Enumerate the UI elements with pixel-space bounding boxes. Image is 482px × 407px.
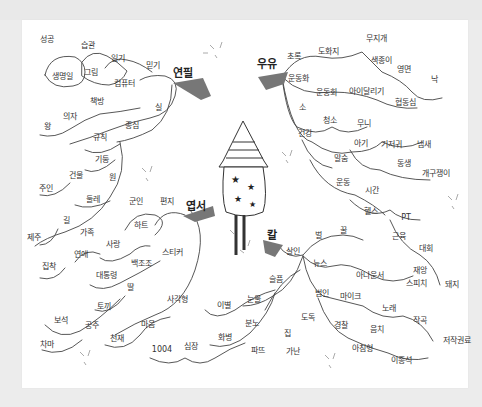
word-label: 가족 <box>80 229 94 237</box>
word-label: 책방 <box>90 98 104 106</box>
word-label: 눈물 <box>247 296 261 304</box>
word-label: 무지개 <box>366 35 387 43</box>
word-label: 마음 <box>141 321 155 329</box>
word-label: 청소 <box>323 117 337 125</box>
word-label: 분노 <box>245 320 259 328</box>
word-label: 주인 <box>39 185 53 193</box>
word-label: 기저귀 <box>381 141 402 149</box>
word-label: 기둥 <box>95 156 109 164</box>
word-label: 가난 <box>286 348 300 356</box>
word-label: 운동회 <box>316 89 337 97</box>
word-label: 공주 <box>85 322 99 330</box>
word-label: 영면 <box>397 66 411 74</box>
word-label: 파뜨 <box>251 347 265 355</box>
word-label: 살인 <box>286 248 300 256</box>
svg-text:★: ★ <box>231 174 240 185</box>
hub-label: 엽서 <box>186 201 206 212</box>
word-label: 보석 <box>54 317 68 325</box>
word-label: 컴퓨터 <box>114 80 135 88</box>
hub-label: 연필 <box>173 68 193 79</box>
svg-text:★: ★ <box>247 182 255 192</box>
word-label: 소 <box>299 104 306 112</box>
word-label: 개구쟁이 <box>422 170 450 178</box>
word-label: 냄새 <box>417 141 431 149</box>
word-label: 도독 <box>301 314 315 322</box>
word-label: 심장 <box>184 343 198 351</box>
word-label: 무니 <box>357 120 371 128</box>
word-label: 재앙 <box>413 267 427 275</box>
word-label: 둘레 <box>86 196 100 204</box>
mind-map-drawing: ★ ★ ★ ★ <box>0 0 482 407</box>
word-label: 협동심 <box>395 99 416 107</box>
word-label: 슬픔 <box>269 276 283 284</box>
rocket-icon <box>219 121 268 255</box>
word-label: 그림 <box>84 69 98 77</box>
word-label: 운동 <box>336 179 350 187</box>
word-label: 초록 <box>287 53 301 61</box>
word-label: 백조조 <box>131 260 152 268</box>
word-label: 길 <box>63 217 70 225</box>
word-label: 믿기 <box>146 62 160 70</box>
word-label: 헬스 <box>364 208 378 216</box>
word-label: 규칙 <box>93 134 107 142</box>
word-label: 토끼 <box>97 303 111 311</box>
word-label: 편지 <box>160 198 174 206</box>
hub-label: 우유 <box>257 59 277 70</box>
word-label: 아나운서 <box>356 272 384 280</box>
word-label: 동생 <box>397 160 411 168</box>
word-label: 경찰 <box>334 322 348 330</box>
word-label: 일기 <box>111 55 125 63</box>
word-label: 습관 <box>81 42 95 50</box>
word-label: 하트 <box>134 222 148 230</box>
word-label: 차마 <box>40 341 54 349</box>
word-label: 벌 <box>315 232 322 240</box>
word-label: 군인 <box>129 198 143 206</box>
word-label: 이별 <box>217 302 231 310</box>
word-label: 사랑 <box>106 241 120 249</box>
word-label: 실 <box>155 104 162 112</box>
word-label: 돼지 <box>445 281 459 289</box>
word-label: 운동화 <box>288 75 309 83</box>
word-label: 이종석 <box>391 357 412 365</box>
word-label: 도화지 <box>318 48 339 56</box>
word-label: 연애 <box>74 251 88 259</box>
word-label: 범인 <box>315 290 329 298</box>
word-label: 사각형 <box>167 296 188 304</box>
word-label: 아이달리기 <box>349 88 384 96</box>
word-label: 작곡 <box>413 317 427 325</box>
word-label: 딸 <box>127 284 134 292</box>
word-label: 건강 <box>298 130 312 138</box>
word-label: 꿀 <box>340 227 347 235</box>
word-label: 아침형 <box>352 345 373 353</box>
word-label: 뉴스 <box>313 260 327 268</box>
word-label: 아기 <box>354 140 368 148</box>
word-label: 왕 <box>44 123 51 131</box>
svg-text:★: ★ <box>234 194 242 204</box>
word-label: 집착 <box>42 263 56 271</box>
svg-text:★: ★ <box>249 200 256 209</box>
word-label: 마이크 <box>340 293 361 301</box>
word-label: 성공 <box>40 36 54 44</box>
word-label: 생명일 <box>52 73 73 81</box>
word-label: 화병 <box>218 334 232 342</box>
word-label: 건물 <box>69 172 83 180</box>
word-label: 의자 <box>63 113 77 121</box>
word-label: 노래 <box>382 305 396 313</box>
word-label: 대회 <box>419 245 433 253</box>
word-label: 종심 <box>125 122 139 130</box>
word-label: 낙 <box>431 76 438 84</box>
word-label: 저작권료 <box>443 337 471 345</box>
word-label: 시간 <box>365 187 379 195</box>
word-label: 원 <box>109 174 116 182</box>
word-label: 1004 <box>152 346 172 354</box>
word-label: 스피치 <box>406 280 427 288</box>
word-label: 색종이 <box>371 57 392 65</box>
word-label: 천재 <box>110 335 124 343</box>
word-label: PT <box>401 214 411 222</box>
hub-label: 칼 <box>267 230 277 241</box>
word-label: 말숨 <box>334 155 348 163</box>
word-label: 음치 <box>370 326 384 334</box>
word-label: 제주 <box>27 234 41 242</box>
word-label: 대통령 <box>96 272 117 280</box>
word-label: 근육 <box>392 233 406 241</box>
